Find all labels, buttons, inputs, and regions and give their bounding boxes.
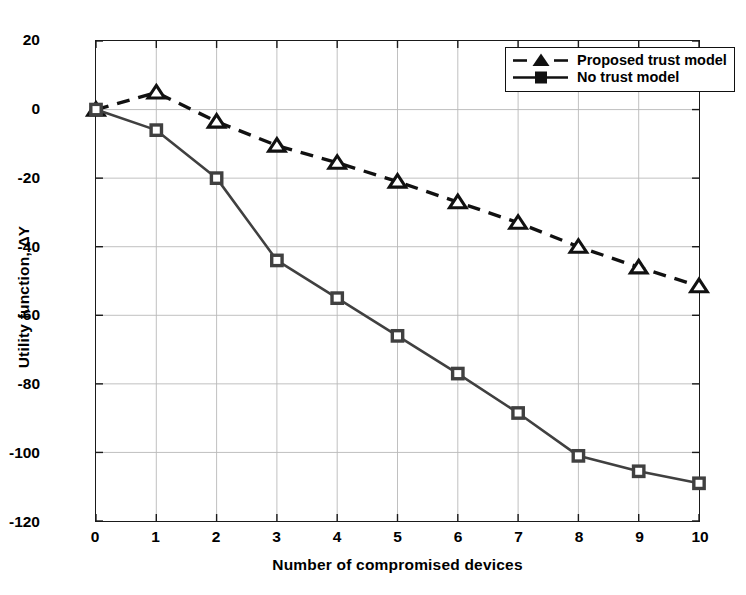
data-point-square	[272, 255, 282, 265]
x-tick-label: 7	[489, 528, 549, 546]
y-axis-label: Utility function, ΔY	[1, 0, 47, 595]
data-point-square	[513, 408, 523, 418]
x-tick-label: 1	[126, 528, 186, 546]
y-tick-label: -100	[0, 444, 40, 462]
data-point-square	[151, 125, 161, 135]
x-tick-label: 6	[428, 528, 488, 546]
chart-figure: Utility function, ΔY 200-20-40-60-80-100…	[0, 0, 746, 595]
data-point-triangle	[570, 240, 587, 253]
data-point-triangle	[148, 85, 165, 98]
y-tick-label: -80	[0, 375, 40, 393]
legend-label-no-trust-model: No trust model	[577, 69, 679, 86]
legend-item-proposed-trust-model: Proposed trust model	[512, 52, 727, 69]
data-point-square	[634, 466, 644, 476]
data-point-square	[91, 104, 101, 114]
data-point-triangle	[630, 260, 647, 273]
data-point-triangle	[208, 115, 225, 128]
data-point-triangle	[269, 139, 286, 152]
x-tick-label: 5	[368, 528, 428, 546]
legend-sample-dashed-triangle	[512, 52, 570, 69]
y-tick-label: -120	[0, 513, 40, 531]
x-tick-label: 3	[247, 528, 307, 546]
x-tick-label: 10	[670, 528, 730, 546]
x-tick-label: 4	[307, 528, 367, 546]
data-point-square	[392, 331, 402, 341]
data-point-triangle	[329, 156, 346, 169]
x-tick-label: 9	[610, 528, 670, 546]
data-point-square	[211, 173, 221, 183]
chart-legend: Proposed trust model No trust model	[505, 47, 735, 92]
legend-sample-solid-square	[512, 69, 570, 86]
series-line-1	[96, 110, 699, 484]
data-point-square	[573, 451, 583, 461]
legend-label-proposed-trust-model: Proposed trust model	[577, 52, 727, 69]
y-tick-label: -40	[0, 238, 40, 256]
plot-area	[95, 40, 700, 522]
x-axis-label: Number of compromised devices	[95, 556, 700, 574]
x-tick-label: 8	[549, 528, 609, 546]
y-tick-label: 0	[0, 100, 40, 118]
data-point-triangle	[510, 216, 527, 229]
data-point-square	[332, 293, 342, 303]
data-point-triangle	[450, 195, 467, 208]
x-tick-label: 2	[186, 528, 246, 546]
y-tick-label: -60	[0, 306, 40, 324]
x-tick-label: 0	[65, 528, 125, 546]
series-line-0	[96, 92, 699, 286]
data-layer	[96, 41, 699, 521]
data-point-triangle	[691, 279, 708, 292]
y-tick-label: -20	[0, 169, 40, 187]
y-tick-label: 20	[0, 31, 40, 49]
data-point-square	[453, 368, 463, 378]
data-point-triangle	[389, 175, 406, 188]
legend-item-no-trust-model: No trust model	[512, 69, 727, 86]
data-point-square	[694, 478, 704, 488]
